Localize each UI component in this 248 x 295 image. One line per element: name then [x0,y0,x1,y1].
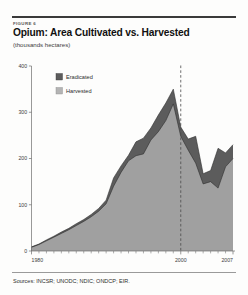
legend-swatch-harvested [56,88,63,95]
x-axis-tick-labels: 198020002007 [32,257,234,263]
sources-line: Sources: INCSR; UNODC; NDIC; ONDCP; EIR. [13,277,130,285]
y-tick-label: 200 [18,155,27,161]
legend-swatch-eradicated [56,74,63,81]
y-axis-tick-labels: 0100200300400 [18,63,27,254]
y-tick-label: 0 [24,248,27,254]
legend-label-eradicated: Eradicated [66,74,93,80]
chart-legend: Eradicated Harvested [56,74,93,95]
x-tick-label: 2007 [221,257,233,263]
y-tick-label: 400 [18,63,27,69]
footer-rule [12,272,236,273]
x-tick-label: 2000 [175,257,187,263]
y-tick-label: 300 [18,109,27,115]
x-axis-ticks [32,251,234,254]
legend-label-harvested: Harvested [66,88,92,94]
figure-card: FIGURE 6 Opium: Area Cultivated vs. Harv… [0,0,248,295]
y-axis-ticks [29,66,32,251]
x-tick-label: 1980 [32,257,44,263]
y-tick-label: 100 [18,202,27,208]
chart-plot: 0100200300400 198020002007 Eradicated Ha… [0,0,248,295]
chart-areas [32,89,234,251]
